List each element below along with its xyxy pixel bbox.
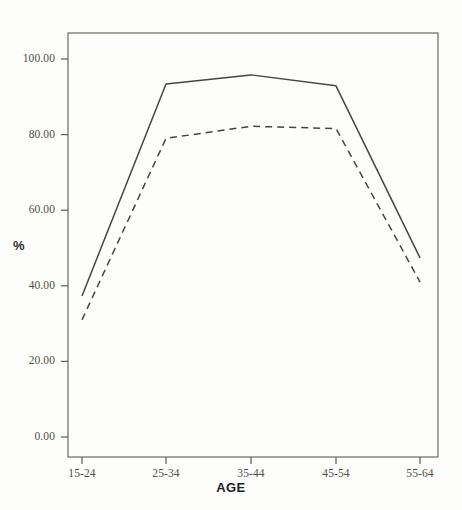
x-tick-label-55-64: 55-64: [380, 467, 460, 479]
y-tick-label-20: 20.00: [0, 354, 55, 366]
y-tick-label-60: 60.00: [0, 203, 55, 215]
y-tick-label-80: 80.00: [0, 128, 55, 140]
plot-canvas: [0, 0, 462, 510]
x-tick-label-45-54: 45-54: [296, 467, 376, 479]
y-axis-ticks: [61, 59, 68, 437]
x-axis-title: AGE: [0, 480, 462, 495]
line-chart: 100.00 80.00 60.00 40.00 20.00 0.00 15-2…: [0, 0, 462, 510]
plot-frame: [68, 33, 438, 457]
y-axis-title: %: [13, 238, 25, 253]
x-tick-label-25-34: 25-34: [126, 467, 206, 479]
x-tick-label-15-24: 15-24: [42, 467, 122, 479]
y-tick-label-100: 100.00: [0, 52, 55, 64]
y-tick-label-0: 0.00: [0, 430, 55, 442]
x-axis-ticks: [82, 457, 420, 464]
y-tick-label-40: 40.00: [0, 279, 55, 291]
x-tick-label-35-44: 35-44: [211, 467, 291, 479]
